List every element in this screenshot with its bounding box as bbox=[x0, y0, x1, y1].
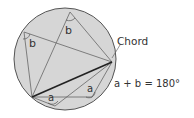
chord-label: Chord bbox=[117, 35, 148, 47]
angle-b-left-label: b bbox=[29, 37, 36, 50]
cyclic-angles-diagram: b b a a Chord a + b = 180° bbox=[0, 0, 194, 118]
angle-a-right-label: a bbox=[87, 83, 93, 94]
angle-b-top-label: b bbox=[65, 24, 72, 37]
equation-label: a + b = 180° bbox=[114, 78, 180, 89]
angle-a-bottom-label: a bbox=[48, 92, 54, 103]
